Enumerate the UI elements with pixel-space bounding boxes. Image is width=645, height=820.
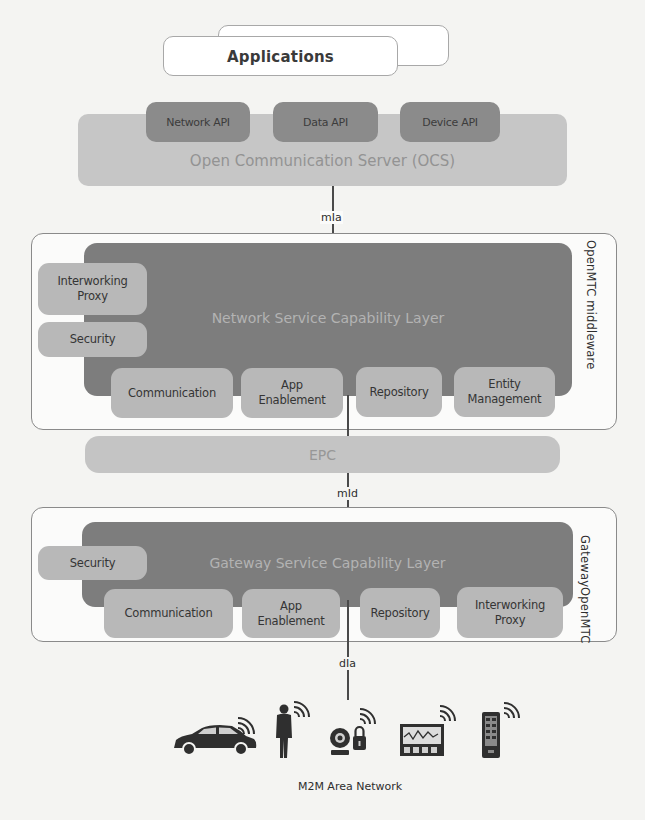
openmtc-middleware-label: OpenMTC middleware: [584, 240, 597, 370]
camera-lock-icon: [328, 706, 378, 760]
module-label-line1: Interworking: [475, 598, 545, 613]
module-label-line2: Management: [468, 392, 542, 407]
gateway-connector-line: [347, 600, 349, 700]
module-label-line1: App: [280, 599, 302, 614]
module-label-line1: App: [281, 378, 303, 393]
gw-communication-module: Communication: [104, 589, 233, 638]
gw-repository-module: Repository: [360, 588, 440, 638]
mid-interface-label: mId: [336, 487, 359, 500]
module-label: Repository: [370, 606, 429, 621]
nscl-label: Network Service Capability Layer: [84, 310, 572, 326]
data-api-pill: Data API: [273, 102, 378, 142]
mw-entity-management-module: Entity Management: [454, 367, 555, 417]
applications-label: Applications: [164, 37, 397, 77]
mia-interface-label: mIa: [320, 211, 343, 224]
gateway-label-line1: OpenMTC: [578, 587, 591, 643]
module-label-line1: Interworking: [57, 274, 127, 289]
mw-security-module: Security: [38, 322, 147, 357]
network-api-pill: Network API: [146, 102, 250, 142]
gscl-label: Gateway Service Capability Layer: [82, 555, 573, 571]
epc-label: EPC: [309, 447, 336, 463]
module-label-line2: Enablement: [257, 614, 324, 629]
epc-bar: EPC: [85, 436, 560, 473]
mia-connector-line: [332, 186, 334, 234]
dia-interface-label: dIa: [338, 657, 357, 670]
module-label: Communication: [124, 606, 212, 621]
module-label: Security: [70, 556, 116, 571]
module-label-line2: Proxy: [495, 613, 526, 628]
gateway-label-line2: Gateway: [578, 535, 591, 587]
openmtc-gateway-label: OpenMTC Gateway: [578, 535, 591, 644]
gw-interworking-proxy-module: Interworking Proxy: [457, 587, 563, 638]
m2m-area-network-label: M2M Area Network: [250, 780, 450, 793]
applications-box: Applications: [163, 36, 398, 76]
middleware-connector-line: [347, 395, 349, 437]
mw-app-enablement-module: App Enablement: [241, 368, 343, 418]
car-icon: [170, 712, 260, 760]
module-label: Communication: [128, 386, 216, 401]
mw-communication-module: Communication: [111, 368, 233, 418]
phone-icon: [480, 700, 524, 760]
person-icon: [272, 700, 312, 760]
mw-interworking-proxy-module: Interworking Proxy: [38, 263, 147, 315]
ocs-label: Open Communication Server (OCS): [78, 152, 567, 170]
gw-app-enablement-module: App Enablement: [242, 589, 340, 638]
module-label-line2: Enablement: [258, 393, 325, 408]
gw-security-module: Security: [38, 546, 147, 580]
monitor-icon: [398, 704, 458, 760]
module-label-line2: Proxy: [77, 289, 108, 304]
module-label: Repository: [369, 385, 428, 400]
mw-repository-module: Repository: [356, 367, 442, 417]
module-label-line1: Entity: [488, 377, 520, 392]
device-api-pill: Device API: [400, 102, 500, 142]
module-label: Security: [70, 332, 116, 347]
